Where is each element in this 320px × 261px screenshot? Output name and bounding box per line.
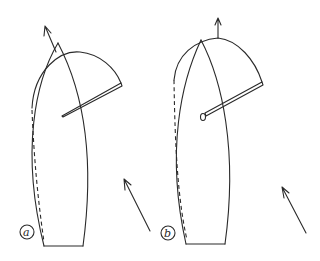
- panel-b: b: [161, 18, 306, 244]
- sail-a-dashed: [32, 110, 44, 242]
- boom-a: [62, 83, 122, 117]
- hull-a-right: [58, 43, 88, 246]
- wind-arrow-a: [124, 179, 150, 231]
- boom-b: [205, 82, 263, 116]
- hull-b-right: [201, 40, 230, 244]
- sailing-diagram: a b: [0, 0, 320, 261]
- hull-a-left: [32, 43, 58, 246]
- hull-b-left: [176, 40, 201, 244]
- label-b: b: [164, 227, 171, 240]
- heading-arrow-b: [215, 18, 221, 38]
- wind-arrow-b: [282, 187, 306, 233]
- heading-arrow-a: [44, 26, 56, 52]
- label-a: a: [23, 226, 30, 239]
- boom-b-ring: [201, 114, 206, 121]
- sail-a-arc: [32, 52, 121, 108]
- panel-a: a: [20, 26, 150, 246]
